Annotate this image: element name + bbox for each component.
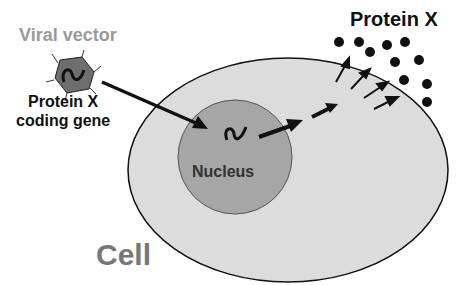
viral-vector-label: Viral vector	[19, 25, 117, 46]
cell-label: Cell	[96, 238, 151, 272]
gene-label-line1: Protein X	[28, 93, 98, 111]
nucleus-label: Nucleus	[192, 163, 254, 181]
gene-label-line2: coding gene	[16, 112, 110, 130]
protein-label: Protein X	[350, 8, 438, 31]
nucleus	[178, 100, 292, 214]
